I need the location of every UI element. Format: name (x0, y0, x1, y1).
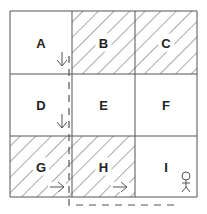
arrow-right-icon (48, 182, 66, 192)
grid-diagram: ABCDEFGHI (0, 0, 207, 214)
cell-label: G (36, 160, 46, 175)
grid-cell-b: B (72, 11, 135, 74)
grid-cell-e: E (72, 74, 135, 136)
cell-label: C (161, 36, 171, 51)
cell-label: D (36, 98, 45, 113)
cell-label: I (164, 160, 168, 175)
arrow-right-icon (111, 182, 129, 192)
cell-label: F (162, 98, 170, 113)
grid-cell-f: F (135, 74, 197, 136)
cell-label: E (99, 98, 108, 113)
cell-label: H (99, 160, 108, 175)
cell-label: A (36, 36, 46, 51)
grid-cell-c: C (135, 11, 197, 74)
grid-cell-i: I (135, 136, 197, 197)
cell-label: B (99, 36, 108, 51)
